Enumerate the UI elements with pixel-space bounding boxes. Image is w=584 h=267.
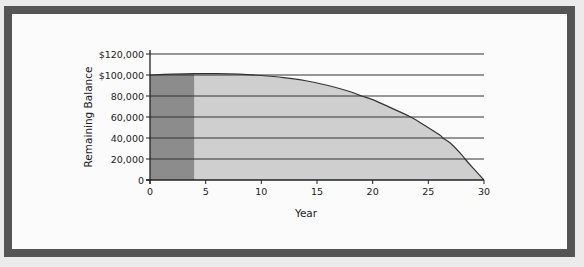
x-tick-label: 10: [255, 186, 267, 197]
y-tick-label: $120,000: [99, 49, 144, 60]
y-tick-label: 80,000: [111, 91, 144, 102]
shaded-regions: [150, 44, 484, 180]
y-tick-label: 40,000: [111, 133, 144, 144]
y-axis-title: Remaining Balance: [82, 67, 94, 168]
x-axis-title: Year: [294, 207, 318, 219]
x-tick-label: 30: [478, 186, 490, 197]
y-tick-label: 20,000: [111, 154, 144, 165]
x-tick-label: 25: [422, 186, 434, 197]
y-tick-label: $100,000: [99, 70, 144, 81]
x-tick-label: 20: [367, 186, 379, 197]
y-axis-ticks: 020,00040,00060,00080,000$100,000$120,00…: [99, 49, 150, 186]
x-tick-label: 0: [147, 186, 153, 197]
x-axis-ticks: 051015202530: [147, 180, 490, 197]
x-tick-label: 5: [203, 186, 209, 197]
y-tick-label: 0: [138, 175, 144, 186]
x-tick-label: 15: [311, 186, 323, 197]
shaded-region-0: [150, 44, 195, 180]
shaded-region-1: [195, 44, 484, 180]
balance-area-chart: 020,00040,00060,00080,000$100,000$120,00…: [0, 0, 584, 267]
y-tick-label: 60,000: [111, 112, 144, 123]
